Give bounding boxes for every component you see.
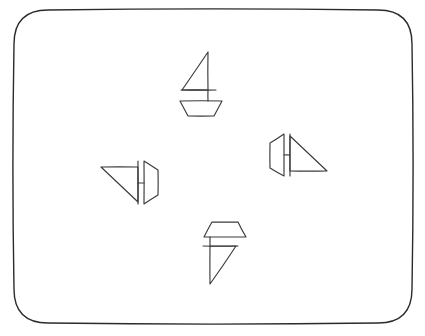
sailboat-left [101, 161, 158, 204]
sailboat-bottom-sail-triangle [210, 246, 236, 284]
tangram-figure-svg [0, 0, 425, 336]
sailboat-right-hull-trapezoid [270, 134, 284, 176]
sailboat-top-sail-triangle [182, 52, 208, 90]
border-frame [13, 9, 413, 324]
sailboat-bottom-hull-trapezoid [204, 222, 246, 237]
shapes-layer [101, 52, 327, 284]
sailboat-right-sail-triangle [290, 136, 327, 171]
rounded-rectangle-border [13, 9, 413, 324]
sailboat-bottom [203, 222, 246, 284]
sailboat-left-hull-trapezoid [144, 161, 158, 204]
figure-canvas [0, 0, 425, 336]
sailboat-top [180, 52, 222, 116]
sailboat-left-sail-triangle [101, 167, 138, 202]
sailboat-right [270, 134, 327, 176]
sailboat-top-hull-trapezoid [180, 101, 222, 116]
